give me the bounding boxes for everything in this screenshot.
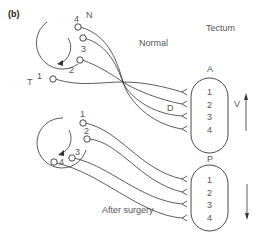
retina-cell-1 [50,76,56,82]
arrow-up-icon [244,93,248,100]
bottom-tectum: 1 2 3 4 [191,165,228,231]
retina-cell-b2 [84,136,90,142]
panel-label: (b) [8,9,20,19]
rotation-arrow-icon [63,38,71,62]
title-normal: Normal [139,38,168,48]
top-tectum: A P 1 2 3 4 [191,64,228,164]
top-terminals [182,89,187,132]
tectum-pos-3: 3 [207,112,212,122]
cell-label-2: 2 [69,65,74,75]
nasal-label: N [86,10,93,20]
tectum-pos-1: 1 [207,87,212,97]
tectum-b-pos-4: 4 [207,213,212,223]
dorsal-label: D [167,103,174,113]
tectum-b-pos-1: 1 [207,175,212,185]
tectum-pos-4: 4 [207,125,212,135]
tectum-b-pos-3: 3 [207,200,212,210]
cell-label-b1: 1 [80,109,85,119]
axon-b1 [85,123,182,179]
axon-b2 [89,139,182,192]
retina-cell-3 [80,35,86,41]
top-eye: 4 N 3 2 1 T [27,10,182,129]
axon-1 [55,79,182,92]
ventral-label: V [234,99,240,109]
title-after-surgery: After surgery [102,205,154,215]
cell-label-1: 1 [37,71,42,81]
cell-label-3: 3 [81,44,86,54]
retina-cell-2 [77,57,83,63]
cell-label-b2: 2 [84,126,89,136]
anterior-label: A [207,64,213,74]
bottom-eye: 1 2 3 4 [37,109,182,218]
retina-cell-b4 [51,159,57,165]
title-tectum: Tectum [206,23,235,33]
retinotectal-diagram: (b) Tectum Normal After surgery 4 N 3 2 … [0,0,263,240]
temporal-label: T [27,77,33,87]
rotation-arrow-icon [64,130,71,152]
posterior-label: P [207,154,213,164]
arrow-down-icon [245,213,249,220]
rotation-arrowhead-icon [57,60,63,66]
cell-label-b4: 4 [59,157,64,167]
rotation-arrowhead-icon [58,150,64,156]
tectum-b-pos-2: 2 [207,188,212,198]
bottom-terminals [182,176,187,221]
cell-label-b3: 3 [75,147,80,157]
retina-cell-4 [75,24,81,30]
eye-outline-arc [36,22,78,69]
cell-label-4: 4 [74,14,79,24]
tectum-pos-2: 2 [207,100,212,110]
